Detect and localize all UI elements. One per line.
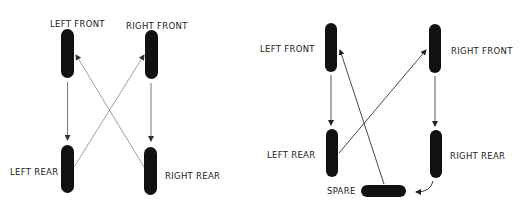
tire-right-front bbox=[145, 30, 158, 79]
label-right-rear: RIGHT REAR bbox=[450, 151, 505, 161]
arrow-spare-to-left-front bbox=[340, 50, 384, 184]
tire-left-rear bbox=[326, 129, 338, 177]
tire-right-rear bbox=[144, 147, 157, 195]
label-left-rear: LEFT REAR bbox=[10, 167, 58, 177]
label-left-rear: LEFT REAR bbox=[267, 150, 315, 160]
label-right-front: RIGHT FRONT bbox=[451, 46, 513, 56]
label-left-front: LEFT FRONT bbox=[50, 19, 105, 29]
label-right-front: RIGHT FRONT bbox=[126, 21, 188, 31]
arrow-right-rear-to-spare bbox=[416, 181, 433, 192]
label-spare: SPARE bbox=[327, 186, 356, 196]
arrow-left-rear-to-right-front bbox=[339, 50, 426, 153]
tire-left-front bbox=[61, 29, 74, 78]
five-tire-rotation-diagram: LEFT FRONT RIGHT FRONT LEFT REAR RIGHT R… bbox=[250, 0, 522, 205]
tire-left-front bbox=[325, 23, 337, 72]
tire-right-rear bbox=[430, 130, 442, 178]
tire-spare bbox=[361, 185, 406, 197]
label-left-front: LEFT FRONT bbox=[260, 44, 315, 54]
label-right-rear: RIGHT REAR bbox=[165, 171, 220, 181]
rotation-arrows-with-spare bbox=[250, 0, 522, 205]
tire-right-front bbox=[429, 24, 441, 73]
tire-left-rear bbox=[61, 145, 74, 193]
four-tire-rotation-diagram: LEFT FRONT RIGHT FRONT LEFT REAR RIGHT R… bbox=[0, 0, 250, 205]
